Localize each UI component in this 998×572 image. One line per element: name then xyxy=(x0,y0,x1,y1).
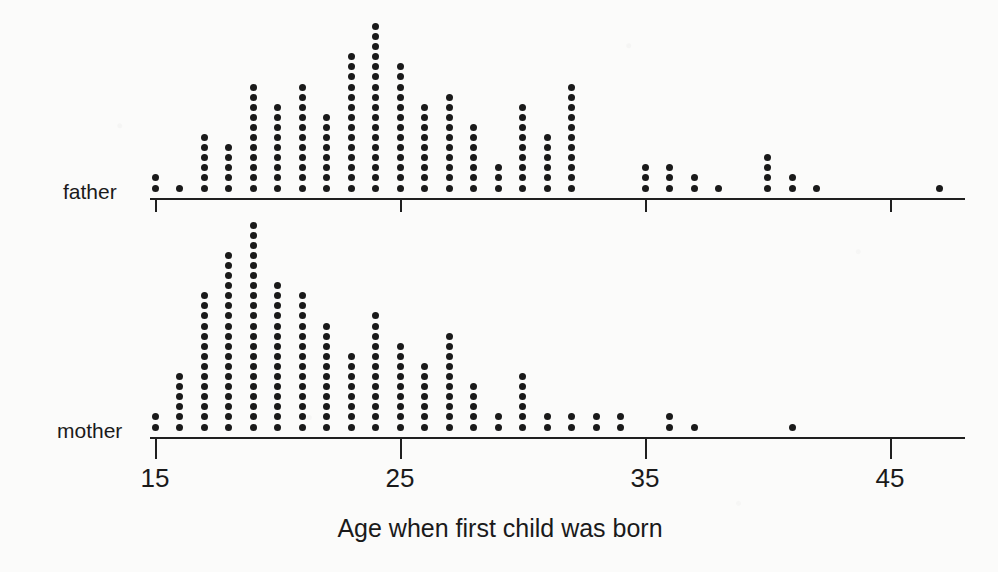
data-dot xyxy=(274,144,281,151)
data-dot xyxy=(372,174,379,181)
data-dot xyxy=(323,124,330,131)
data-dot xyxy=(274,185,281,192)
data-dot xyxy=(323,114,330,121)
data-dot xyxy=(274,413,281,420)
data-dot xyxy=(323,185,330,192)
data-dot xyxy=(274,134,281,141)
data-dot xyxy=(201,383,208,390)
data-dot xyxy=(348,393,355,400)
data-dot xyxy=(250,154,257,161)
data-dot xyxy=(372,312,379,319)
data-dot xyxy=(299,84,306,91)
data-dot xyxy=(372,323,379,330)
data-dot xyxy=(323,383,330,390)
data-dot xyxy=(495,424,502,431)
data-dot xyxy=(274,424,281,431)
data-dot xyxy=(421,383,428,390)
data-dot xyxy=(299,185,306,192)
data-dot xyxy=(470,403,477,410)
data-dot xyxy=(176,373,183,380)
data-dot xyxy=(250,164,257,171)
data-dot xyxy=(250,124,257,131)
data-dot xyxy=(372,144,379,151)
data-dot xyxy=(225,393,232,400)
data-dot xyxy=(348,63,355,70)
data-dot xyxy=(299,114,306,121)
data-dot xyxy=(568,124,575,131)
data-dot xyxy=(421,373,428,380)
data-dot xyxy=(274,282,281,289)
data-dot xyxy=(274,323,281,330)
data-dot xyxy=(152,174,159,181)
data-dot xyxy=(519,174,526,181)
axis-tick-25 xyxy=(400,198,402,212)
data-dot xyxy=(446,343,453,350)
data-dot xyxy=(372,383,379,390)
data-dot xyxy=(323,393,330,400)
data-dot xyxy=(348,424,355,431)
data-dot xyxy=(348,185,355,192)
data-dot xyxy=(250,174,257,181)
data-dot xyxy=(397,383,404,390)
data-dot xyxy=(225,424,232,431)
data-dot xyxy=(446,413,453,420)
data-dot xyxy=(446,424,453,431)
data-dot xyxy=(176,393,183,400)
data-dot xyxy=(201,424,208,431)
data-dot xyxy=(323,424,330,431)
data-dot xyxy=(348,373,355,380)
data-dot xyxy=(372,333,379,340)
data-dot xyxy=(274,124,281,131)
data-dot xyxy=(397,73,404,80)
data-dot xyxy=(274,333,281,340)
data-dot xyxy=(348,154,355,161)
data-dot xyxy=(544,185,551,192)
data-dot xyxy=(274,114,281,121)
data-dot xyxy=(397,84,404,91)
data-dot xyxy=(250,242,257,249)
data-dot xyxy=(225,185,232,192)
data-dot xyxy=(421,403,428,410)
data-dot xyxy=(274,164,281,171)
data-dot xyxy=(421,424,428,431)
data-dot xyxy=(372,413,379,420)
data-dot xyxy=(372,343,379,350)
data-dot xyxy=(152,413,159,420)
data-dot xyxy=(372,124,379,131)
data-dot xyxy=(519,164,526,171)
data-dot xyxy=(201,164,208,171)
data-dot xyxy=(568,144,575,151)
data-dot xyxy=(299,424,306,431)
data-dot xyxy=(421,104,428,111)
data-dot xyxy=(250,403,257,410)
data-dot xyxy=(519,373,526,380)
data-dot xyxy=(372,73,379,80)
data-dot xyxy=(397,424,404,431)
data-dot xyxy=(201,323,208,330)
data-dot xyxy=(397,104,404,111)
data-dot xyxy=(372,353,379,360)
data-dot xyxy=(250,312,257,319)
data-dot xyxy=(299,104,306,111)
data-dot xyxy=(372,23,379,30)
dot-plot-figure: father mother 15253545 Age when first ch… xyxy=(0,0,998,572)
data-dot xyxy=(225,373,232,380)
data-dot xyxy=(250,134,257,141)
data-dot xyxy=(421,363,428,370)
data-dot xyxy=(470,174,477,181)
data-dot xyxy=(274,363,281,370)
data-dot xyxy=(372,84,379,91)
data-dot xyxy=(495,185,502,192)
data-dot xyxy=(593,424,600,431)
data-dot xyxy=(470,144,477,151)
data-dot xyxy=(568,134,575,141)
data-dot xyxy=(299,154,306,161)
data-dot xyxy=(299,403,306,410)
data-dot xyxy=(250,383,257,390)
data-dot xyxy=(397,343,404,350)
data-dot xyxy=(666,413,673,420)
data-dot xyxy=(568,185,575,192)
data-dot xyxy=(176,424,183,431)
data-dot xyxy=(372,134,379,141)
x-tick-label-45: 45 xyxy=(876,465,905,491)
